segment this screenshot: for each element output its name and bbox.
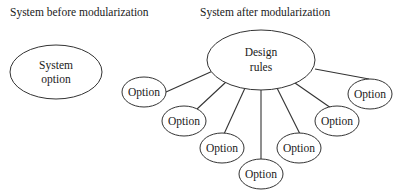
system-option-node: System option — [10, 45, 102, 99]
system-option-line2: option — [41, 73, 71, 86]
option-label: Option — [245, 168, 277, 181]
edge-1 — [166, 70, 215, 92]
option-node-2: Option — [162, 106, 206, 136]
option-label: Option — [206, 142, 238, 155]
option-label: Option — [354, 88, 386, 101]
option-node-7: Option — [348, 79, 392, 109]
design-rules-line1: Design — [245, 46, 278, 59]
edge-5 — [277, 88, 300, 134]
edge-7 — [315, 69, 369, 79]
option-node-6: Option — [315, 106, 359, 136]
after-title: System after modularization — [200, 6, 331, 19]
system-option-line1: System — [39, 59, 73, 72]
option-node-3: Option — [200, 133, 244, 163]
option-node-4: Option — [239, 159, 283, 189]
edge-2 — [197, 82, 226, 109]
design-rules-line2: rules — [250, 61, 273, 73]
option-label: Option — [128, 86, 160, 99]
option-label: Option — [168, 115, 200, 128]
design-rules-node: Design rules — [207, 30, 315, 90]
edge-3 — [224, 88, 245, 134]
modularization-diagram: System before modularization System afte… — [0, 0, 396, 195]
option-label: Option — [283, 142, 315, 155]
option-label: Option — [321, 115, 353, 128]
edge-6 — [295, 83, 331, 108]
option-node-1: Option — [122, 77, 166, 107]
option-node-5: Option — [277, 133, 321, 163]
before-title: System before modularization — [10, 6, 149, 19]
